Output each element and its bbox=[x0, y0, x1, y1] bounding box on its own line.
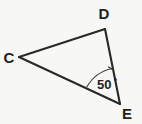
triangle-diagram-svg: 50 º C D E bbox=[0, 0, 142, 124]
degree-symbol-icon: º bbox=[114, 77, 117, 86]
vertex-label-C: C bbox=[4, 49, 15, 66]
side-DE bbox=[105, 29, 120, 104]
side-CD bbox=[19, 29, 105, 57]
angle-label-E: 50 bbox=[97, 77, 111, 92]
vertex-label-D: D bbox=[99, 5, 110, 22]
geometry-figure: 50 º C D E bbox=[0, 0, 142, 124]
vertex-label-E: E bbox=[122, 105, 132, 122]
